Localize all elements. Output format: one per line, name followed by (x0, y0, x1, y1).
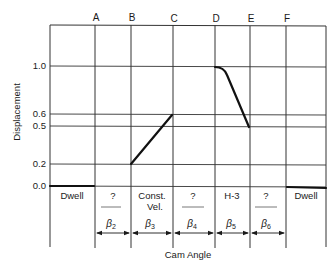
y-tick-0-6: 0.6 (33, 108, 46, 119)
y-axis-title: Displacement (11, 83, 22, 141)
segment-label-unknown-4: ? (190, 190, 195, 201)
segment-label-const: Const. (138, 190, 165, 201)
beta-2-label: β2 (105, 218, 116, 230)
const-vel-segment (131, 115, 172, 164)
beta-3-label: β3 (144, 218, 155, 230)
segment-label-unknown-2: ? (110, 190, 115, 201)
beta-labels: β2 β3 β4 β5 β6 (105, 218, 271, 230)
h3-segment (215, 67, 249, 127)
x-axis-title: Cam Angle (165, 249, 211, 260)
plot-frame (50, 25, 326, 247)
vertical-grid (95, 25, 286, 248)
segment-labels: Dwell ? Const. Vel. ? H-3 ? Dwell (60, 190, 317, 212)
y-tick-0-2: 0.2 (33, 158, 46, 169)
segment-label-vel: Vel. (147, 201, 163, 212)
beta-4-label: β4 (186, 218, 197, 230)
cam-displacement-diagram: A B C D E F 1.0 0.6 0.5 0.2 0.0 Displace… (0, 0, 333, 269)
column-label-d: D (212, 13, 219, 24)
segment-label-dwell-end: Dwell (294, 190, 317, 201)
segment-label-dwell-start: Dwell (60, 190, 83, 201)
segment-label-unknown-6: ? (263, 190, 268, 201)
column-label-a: A (93, 12, 100, 23)
beta-5-label: β5 (225, 218, 236, 230)
column-labels: A B C D E F (93, 12, 290, 24)
segment-label-h3: H-3 (224, 190, 239, 201)
horizontal-grid (50, 66, 326, 187)
dwell-end-segment (287, 187, 326, 188)
displacement-curve (50, 67, 326, 188)
beta-6-label: β6 (260, 218, 271, 230)
column-label-c: C (170, 13, 177, 24)
y-tick-0-5: 0.5 (33, 120, 46, 131)
y-tick-labels: 1.0 0.6 0.5 0.2 0.0 (33, 60, 46, 191)
y-tick-0-0: 0.0 (33, 180, 46, 191)
column-label-f: F (284, 13, 290, 24)
column-label-e: E (248, 13, 255, 24)
y-tick-1-0: 1.0 (33, 60, 46, 71)
column-label-b: B (129, 12, 136, 23)
